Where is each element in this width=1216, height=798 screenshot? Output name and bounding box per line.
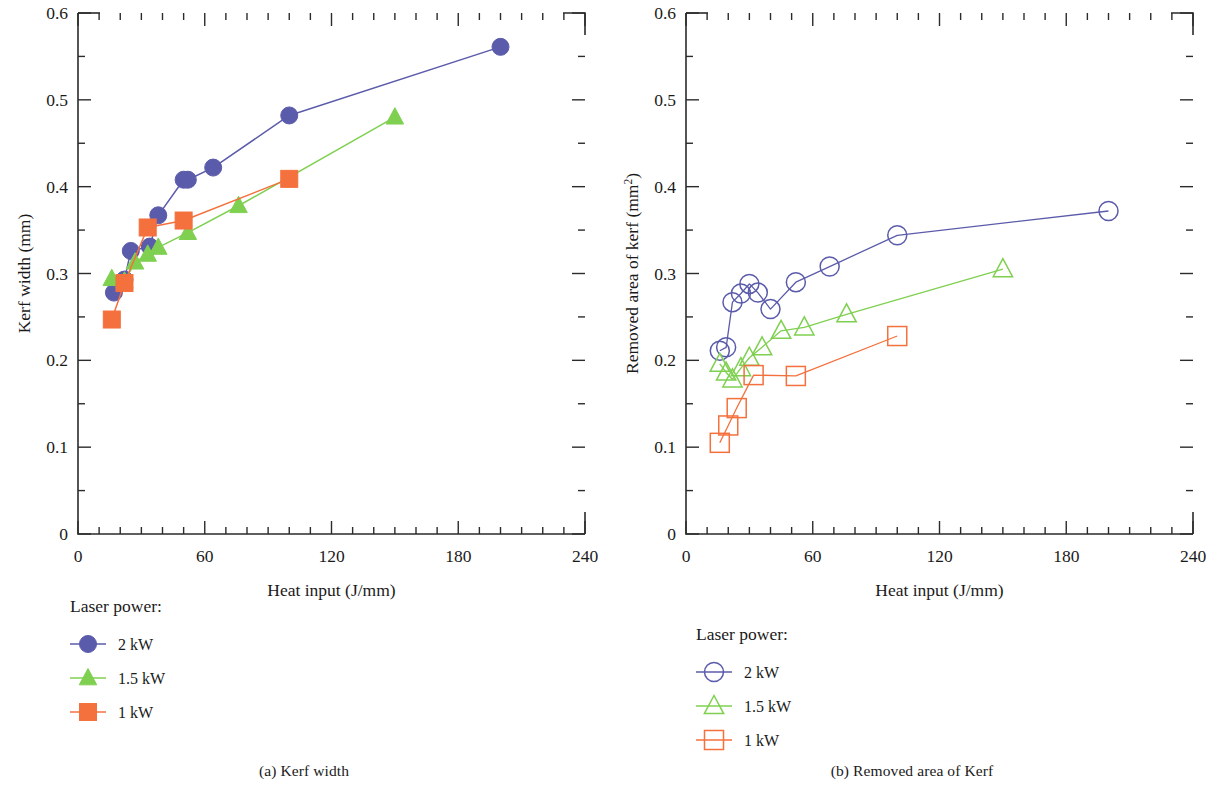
axis-frame bbox=[78, 13, 585, 534]
x-axis-title: Heat input (J/mm) bbox=[875, 580, 1003, 600]
y-tick-label: 0 bbox=[59, 524, 68, 544]
data-point-triangle bbox=[740, 347, 759, 365]
legend-marker-triangle-icon bbox=[79, 669, 96, 685]
y-tick-label: 0.3 bbox=[46, 264, 68, 284]
data-point-square bbox=[103, 311, 120, 328]
figure-container: 06012018024000.10.20.30.40.50.6Heat inpu… bbox=[0, 0, 1216, 798]
data-point-triangle bbox=[993, 259, 1012, 277]
caption-panel-a: (a)Kerf width bbox=[0, 762, 608, 780]
x-tick-label: 0 bbox=[74, 546, 83, 566]
x-axis-tick-labels: 060120180240 bbox=[682, 546, 1207, 566]
data-series bbox=[710, 259, 1012, 387]
x-tick-label: 180 bbox=[1053, 546, 1080, 566]
y-axis-ticks bbox=[686, 13, 1193, 534]
data-point-circle bbox=[205, 159, 222, 176]
x-tick-label: 240 bbox=[1180, 546, 1207, 566]
data-series bbox=[105, 38, 509, 301]
x-tick-label: 60 bbox=[196, 546, 214, 566]
data-point-square bbox=[175, 212, 192, 229]
svg-text:Removed area of kerf (mm2): Removed area of kerf (mm2) bbox=[622, 173, 642, 374]
legend-item-2kw[interactable]: 2 kW bbox=[696, 663, 780, 682]
caption-b-text: Removed area of Kerf bbox=[853, 762, 993, 779]
data-point-square bbox=[139, 219, 156, 236]
y-tick-label: 0.2 bbox=[654, 350, 676, 370]
caption-a-number: (a) bbox=[259, 762, 277, 779]
x-tick-label: 180 bbox=[445, 546, 472, 566]
y-tick-label: 0.6 bbox=[46, 3, 68, 23]
y-tick-label: 0.4 bbox=[654, 177, 676, 197]
caption-a-text: Kerf width bbox=[280, 762, 349, 779]
x-tick-label: 120 bbox=[926, 546, 953, 566]
y-axis-ticks bbox=[78, 13, 585, 534]
legend-marker-triangle-icon bbox=[704, 696, 723, 714]
legend-label: 2 kW bbox=[744, 664, 780, 681]
y-axis-tick-labels: 00.10.20.30.40.50.6 bbox=[46, 3, 68, 544]
caption-b-number: (b) bbox=[831, 762, 849, 779]
legend-label: 1.5 kW bbox=[744, 698, 792, 715]
x-tick-label: 240 bbox=[572, 546, 599, 566]
legend-title: Laser power: bbox=[696, 624, 788, 644]
data-point-circle bbox=[492, 38, 509, 55]
x-axis-title: Heat input (J/mm) bbox=[267, 580, 395, 600]
data-series bbox=[710, 327, 906, 453]
y-axis-title: Kerf width (mm) bbox=[14, 214, 34, 334]
data-point-triangle bbox=[386, 108, 403, 124]
legend-item-15kw[interactable]: 1.5 kW bbox=[70, 669, 166, 688]
data-point-circle bbox=[281, 107, 298, 124]
y-tick-label: 0.1 bbox=[654, 437, 676, 457]
y-tick-label: 0.5 bbox=[46, 90, 68, 110]
panel-kerf-width: 06012018024000.10.20.30.40.50.6Heat inpu… bbox=[0, 0, 608, 798]
legend-item-1kw[interactable]: 1 kW bbox=[70, 704, 154, 722]
kerf-width-chart: 06012018024000.10.20.30.40.50.6Heat inpu… bbox=[0, 0, 608, 760]
caption-panel-b: (b)Removed area of Kerf bbox=[608, 762, 1216, 780]
x-axis-tick-labels: 060120180240 bbox=[74, 546, 599, 566]
legend-label: 1.5 kW bbox=[118, 670, 166, 687]
chart-legend: Laser power:2 kW1.5 kW1 kW bbox=[696, 624, 792, 750]
y-tick-label: 0.2 bbox=[46, 350, 68, 370]
legend-item-2kw[interactable]: 2 kW bbox=[70, 636, 154, 654]
legend-item-15kw[interactable]: 1.5 kW bbox=[696, 696, 792, 716]
y-tick-label: 0.1 bbox=[46, 437, 68, 457]
removed-area-chart: 06012018024000.10.20.30.40.50.6Heat inpu… bbox=[608, 0, 1216, 760]
legend-marker-square-icon bbox=[80, 704, 97, 721]
y-axis-title: Removed area of kerf (mm2) bbox=[622, 173, 642, 374]
legend-label: 1 kW bbox=[118, 704, 154, 721]
data-point-square bbox=[710, 433, 729, 452]
x-tick-label: 0 bbox=[682, 546, 691, 566]
svg-text:Kerf width (mm): Kerf width (mm) bbox=[14, 214, 34, 334]
x-axis-ticks bbox=[686, 13, 1193, 534]
y-tick-label: 0.5 bbox=[654, 90, 676, 110]
data-series bbox=[710, 201, 1118, 360]
legend-item-1kw[interactable]: 1 kW bbox=[696, 731, 780, 750]
data-point-square bbox=[281, 170, 298, 187]
panel-removed-area: 06012018024000.10.20.30.40.50.6Heat inpu… bbox=[608, 0, 1216, 798]
legend-title: Laser power: bbox=[70, 596, 162, 616]
legend-label: 1 kW bbox=[744, 732, 780, 749]
y-tick-label: 0.3 bbox=[654, 264, 676, 284]
legend-label: 2 kW bbox=[118, 636, 154, 653]
y-axis-tick-labels: 00.10.20.30.40.50.6 bbox=[654, 3, 676, 544]
y-tick-label: 0 bbox=[667, 524, 676, 544]
x-tick-label: 120 bbox=[318, 546, 345, 566]
x-axis-ticks bbox=[78, 13, 585, 534]
chart-legend: Laser power:2 kW1.5 kW1 kW bbox=[70, 596, 166, 721]
legend-marker-circle-icon bbox=[80, 636, 97, 653]
y-tick-label: 0.4 bbox=[46, 177, 68, 197]
data-point-square bbox=[116, 275, 133, 292]
data-series bbox=[103, 108, 404, 288]
data-point-circle bbox=[179, 171, 196, 188]
axis-frame bbox=[686, 13, 1193, 534]
x-tick-label: 60 bbox=[804, 546, 822, 566]
y-tick-label: 0.6 bbox=[654, 3, 676, 23]
